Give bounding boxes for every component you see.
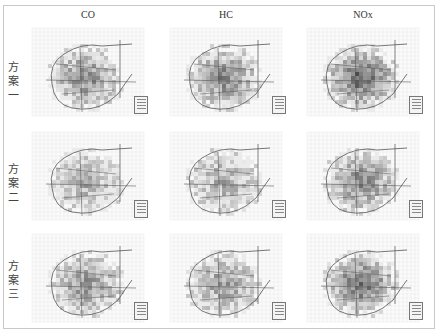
row-label-scheme-2: 方 案 二 (6, 163, 20, 205)
row-label-char: 方 (6, 260, 20, 274)
map-legend-icon (409, 96, 423, 114)
emission-map-co-scheme-1 (22, 24, 154, 120)
map-legend-icon (409, 302, 423, 320)
row-label-char: 一 (6, 89, 20, 103)
row-label-char: 方 (6, 163, 20, 177)
emission-map-nox-scheme-1 (297, 24, 429, 120)
emission-map-hc-scheme-3 (160, 230, 292, 326)
map-legend-icon (134, 302, 148, 320)
row-label-char: 案 (6, 177, 20, 191)
map-legend-icon (409, 200, 423, 218)
row-label-char: 方 (6, 61, 20, 75)
column-header-co: CO (48, 9, 128, 20)
column-header-nox: NOx (323, 9, 403, 20)
column-header-hc: HC (186, 9, 266, 20)
emission-map-hc-scheme-2 (160, 128, 292, 224)
emission-map-co-scheme-2 (22, 128, 154, 224)
map-legend-icon (272, 96, 286, 114)
map-legend-icon (272, 302, 286, 320)
map-legend-icon (272, 200, 286, 218)
row-label-char: 案 (6, 274, 20, 288)
emission-map-co-scheme-3 (22, 230, 154, 326)
row-label-scheme-1: 方 案 一 (6, 61, 20, 103)
map-legend-icon (134, 96, 148, 114)
emission-map-nox-scheme-3 (297, 230, 429, 326)
row-label-char: 三 (6, 288, 20, 302)
emission-map-hc-scheme-1 (160, 24, 292, 120)
emission-map-nox-scheme-2 (297, 128, 429, 224)
map-legend-icon (134, 200, 148, 218)
row-label-scheme-3: 方 案 三 (6, 260, 20, 302)
row-label-char: 案 (6, 75, 20, 89)
row-label-char: 二 (6, 191, 20, 205)
